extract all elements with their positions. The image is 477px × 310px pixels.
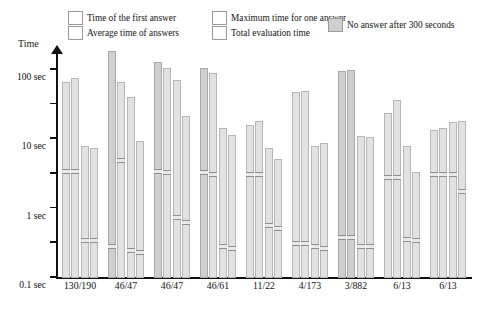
bar-group-5 [287,60,333,278]
bar-marker-g2-s2 [173,215,181,220]
legend-swatch-no-answer [328,18,343,32]
x-axis-label-8: 6/13 [439,280,456,291]
bar-marker-g8-s1 [439,172,447,177]
legend-swatch-average-time [68,26,83,40]
y-tick-label-2: 1 sec [27,209,46,220]
bar-g3-s2 [219,128,227,278]
bar-g2-s3 [182,116,190,278]
bar-marker-g5-s2 [311,244,319,249]
bar-marker-g8-s2 [449,172,457,177]
y-tick-3: 0.1 sec [50,172,57,174]
bar-g3-s0 [200,68,208,278]
x-axis-label-6: 3/882 [345,280,367,291]
bar-marker-g0-s0 [62,169,70,174]
bar-g4-s3 [274,159,282,278]
bar-marker-g5-s0 [292,241,300,246]
bar-group-0 [57,60,103,278]
bar-marker-g8-s3 [458,189,466,194]
bar-g0-s1 [71,78,79,278]
bar-g5-s0 [292,92,300,278]
bar-marker-g6-s3 [366,244,374,249]
chart-legend: Time of the first answer Average time of… [0,0,477,46]
bar-marker-g0-s2 [81,238,89,243]
bar-g6-s0 [338,71,346,278]
y-tick-label-0: 100 sec [17,71,46,82]
bar-group-7 [379,60,425,278]
bar-marker-g6-s2 [357,244,365,249]
bar-marker-g6-s1 [347,235,355,240]
bar-marker-g4-s0 [246,172,254,177]
bar-g8-s0 [430,130,438,278]
x-axis-label-5: 4/173 [299,280,321,291]
bar-g3-s1 [209,73,217,278]
bar-g5-s1 [301,91,309,278]
legend-swatch-first-answer [68,11,83,25]
bar-g5-s2 [311,146,319,278]
bar-g6-s3 [366,137,374,278]
bar-g8-s3 [458,121,466,278]
x-axis-label-7: 6/13 [393,280,410,291]
bar-group-2 [149,60,195,278]
bar-g1-s1 [117,82,125,278]
legend-swatch-total-evaluation [212,26,227,40]
legend-item-maximum-time: Maximum time for one answer [212,11,346,25]
bar-marker-g1-s2 [127,248,135,253]
x-axis-label-3: 46/61 [207,280,229,291]
y-tick-2: 1 sec [50,137,57,139]
bar-group-3 [195,60,241,278]
bar-g2-s2 [173,80,181,278]
legend-swatch-maximum-time [212,11,227,25]
bar-g0-s2 [81,146,89,278]
bar-marker-g3-s1 [209,172,217,177]
bar-marker-g4-s2 [265,223,273,228]
bar-group-4 [241,60,287,278]
bar-g0-s3 [90,148,98,278]
y-tick-label-1: 10 sec [22,140,46,151]
bar-g3-s3 [228,135,236,278]
bar-marker-g7-s1 [393,175,401,180]
legend-label-total-evaluation: Total evaluation time [231,28,310,38]
bar-g6-s2 [357,136,365,278]
y-tick-6: 0.1 ms [50,276,57,278]
bar-g1-s0 [108,51,116,278]
bar-g5-s3 [320,143,328,278]
y-tick-0: 100 sec [50,68,57,70]
bar-g4-s2 [265,148,273,278]
bar-g4-s1 [255,121,263,278]
bar-marker-g3-s3 [228,246,236,251]
x-axis-label-0: 130/190 [64,280,96,291]
bar-marker-g6-s0 [338,235,346,240]
bar-marker-g5-s3 [320,246,328,251]
bar-marker-g2-s1 [163,170,171,175]
bar-g7-s3 [412,172,420,278]
bar-marker-g8-s0 [430,172,438,177]
bar-g7-s0 [384,113,392,278]
bar-group-8 [425,60,471,278]
bar-g1-s3 [136,141,144,278]
x-axis-label-4: 11/22 [253,280,275,291]
bar-g7-s1 [393,100,401,278]
bar-g0-s0 [62,82,70,278]
bar-marker-g7-s0 [384,175,392,180]
y-axis-title: Time [18,38,39,49]
bar-g2-s1 [163,68,171,278]
bar-group-1 [103,60,149,278]
bar-marker-g1-s1 [117,158,125,163]
bar-g6-s1 [347,70,355,278]
legend-item-no-answer: No answer after 300 seconds [328,18,454,32]
y-tick-5: 1 ms [50,241,57,243]
bar-group-6 [333,60,379,278]
bar-g4-s0 [246,125,254,278]
bar-marker-g7-s2 [403,237,411,242]
bar-marker-g1-s3 [136,250,144,255]
bar-g8-s2 [449,122,457,278]
bar-marker-g2-s3 [182,220,190,225]
legend-label-average-time: Average time of answers [87,28,179,38]
bar-g2-s0 [154,62,162,278]
bar-marker-g3-s0 [200,170,208,175]
bar-g8-s1 [439,128,447,278]
plot-area: 100 sec10 sec1 sec0.1 sec10 ms1 ms0.1 ms [57,60,471,278]
x-axis-label-1: 46/47 [115,280,137,291]
bar-g7-s2 [403,146,411,278]
bar-marker-g1-s0 [108,244,116,249]
